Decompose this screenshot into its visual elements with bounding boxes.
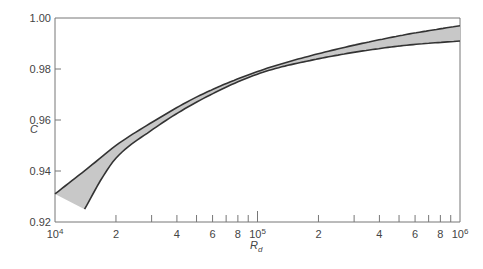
x-tick-label: 8 — [235, 228, 241, 240]
x-tick-label: 2 — [315, 228, 321, 240]
x-tick-label: 8 — [437, 228, 443, 240]
y-tick-label: 0.94 — [30, 165, 51, 177]
x-tick-label: 6 — [210, 228, 216, 240]
x-axis: 10424681052468106 — [47, 211, 469, 240]
y-axis: 0.920.940.960.981.00 — [30, 12, 61, 228]
band-area — [55, 26, 460, 210]
x-tick-label: 4 — [376, 228, 382, 240]
upper-curve — [55, 26, 460, 194]
x-axis-label: Rd — [250, 239, 263, 254]
chart: 0.920.940.960.981.00 10424681052468106 C… — [0, 0, 483, 269]
x-tick-label: 4 — [174, 228, 180, 240]
y-tick-label: 1.00 — [30, 12, 51, 24]
x-tick-label: 6 — [412, 228, 418, 240]
x-tick-label: 106 — [452, 227, 469, 240]
y-axis-label: C — [30, 123, 38, 135]
plot-frame — [55, 18, 460, 222]
y-tick-label: 0.98 — [30, 63, 51, 75]
x-tick-label: 104 — [47, 227, 64, 240]
y-tick-label: 0.92 — [30, 216, 51, 228]
band-fill — [55, 26, 460, 210]
plot-border — [55, 18, 460, 222]
x-tick-label: 2 — [113, 228, 119, 240]
